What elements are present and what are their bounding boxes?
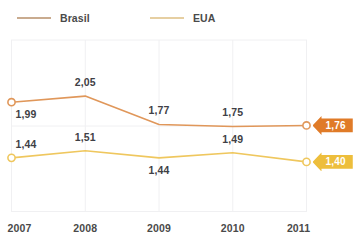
value-label-eua-2010: 1,49 <box>222 133 243 145</box>
line-chart: Brasil EUA 1,992,051,771,751,441,511,441… <box>0 0 364 247</box>
data-point-marker <box>8 99 15 106</box>
legend-label-brasil: Brasil <box>60 12 90 24</box>
x-tick-2011: 2011 <box>287 222 310 234</box>
data-point-marker <box>303 122 310 129</box>
value-label-brasil-2008: 2,05 <box>75 76 96 88</box>
legend-item-brasil: Brasil <box>17 8 90 28</box>
value-label-eua-2009: 1,44 <box>149 164 170 176</box>
legend-swatch-brasil-icon <box>17 17 51 19</box>
legend-item-eua: EUA <box>150 8 215 28</box>
value-label-brasil-2009: 1,77 <box>149 104 170 116</box>
chart-legend: Brasil EUA <box>0 8 364 32</box>
data-point-marker <box>8 154 15 161</box>
data-point-marker <box>303 158 310 165</box>
value-label-eua-2007: 1,44 <box>16 138 37 150</box>
endpoint-badge-brasil: 1,76 <box>313 116 353 135</box>
legend-label-eua: EUA <box>193 12 215 24</box>
x-axis: 20072008200920102011 <box>0 222 364 242</box>
x-tick-2008: 2008 <box>73 222 97 234</box>
legend-swatch-eua-icon <box>150 17 184 19</box>
value-label-brasil-2010: 1,75 <box>222 106 243 118</box>
endpoint-badge-eua: 1,40 <box>313 152 353 171</box>
value-label-eua-2008: 1,51 <box>75 131 96 143</box>
plot-svg <box>11 40 307 212</box>
x-tick-2009: 2009 <box>147 222 171 234</box>
plot-area <box>11 40 307 212</box>
value-label-brasil-2007: 1,99 <box>16 108 37 120</box>
x-tick-2007: 2007 <box>8 222 32 234</box>
x-tick-2010: 2010 <box>221 222 245 234</box>
